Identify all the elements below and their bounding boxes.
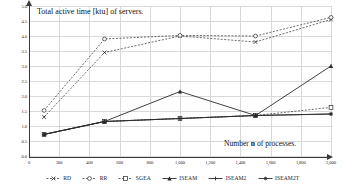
legend-label: RR (100, 175, 108, 182)
data-point-star-marker (254, 114, 258, 118)
legend-marker-icon (118, 175, 133, 182)
data-point-circle-marker (254, 34, 258, 38)
series-line (44, 114, 331, 134)
data-point-star-marker (263, 176, 267, 180)
legend-item-rr[interactable]: RR (82, 175, 107, 182)
legend-item-rd[interactable]: RD (46, 175, 71, 182)
data-point-star-marker (103, 120, 107, 124)
data-point-circle-marker (329, 16, 333, 20)
series-line (44, 20, 331, 118)
legend-item-iseam2[interactable]: ISEAM2 (208, 175, 246, 182)
chart-figure: 0.00.51.01.52.02.53.03.54.04.55.0 020040… (0, 0, 345, 188)
legend-marker-icon (208, 175, 223, 182)
legend-label: RD (63, 175, 71, 182)
legend-label: SGEA (136, 175, 151, 182)
series-rd (42, 18, 333, 119)
legend-marker-icon (46, 175, 61, 182)
data-point-triangle-marker (329, 64, 333, 68)
series-line (44, 107, 331, 134)
data-point-square-marker (329, 106, 333, 110)
legend-marker-icon (82, 175, 97, 182)
legend-marker-icon (258, 175, 273, 182)
series-iseam2 (42, 112, 333, 136)
data-point-x-marker (254, 40, 258, 44)
data-point-circle-marker (42, 109, 46, 113)
data-point-triangle-marker (178, 89, 182, 93)
legend-label: ISEAM2T (275, 175, 299, 182)
legend-item-iseam[interactable]: ISEAM (162, 175, 197, 182)
data-series-layer (0, 0, 345, 188)
series-line (44, 66, 331, 134)
data-point-x-marker (42, 115, 46, 119)
data-point-square-marker (124, 176, 128, 180)
legend-label: ISEAM2 (226, 175, 247, 182)
series-sgea (42, 106, 333, 137)
chart-legend: RDRRSGEAISEAMISEAM2ISEAM2T (0, 168, 345, 188)
data-point-plus-marker (214, 176, 218, 180)
series-rr (42, 16, 333, 113)
data-point-star-marker (178, 117, 182, 121)
series-line (44, 17, 331, 110)
legend-marker-icon (162, 175, 177, 182)
data-point-star-marker (42, 133, 46, 137)
series-iseam2t (42, 112, 333, 136)
data-point-circle-marker (178, 34, 182, 38)
data-point-x-marker (103, 51, 107, 55)
data-point-circle-marker (88, 176, 92, 180)
data-point-star-marker (329, 112, 333, 116)
series-line (44, 114, 331, 134)
data-point-circle-marker (103, 37, 107, 41)
legend-label: ISEAM (179, 175, 197, 182)
legend-item-iseam2t[interactable]: ISEAM2T (258, 175, 300, 182)
legend-item-sgea[interactable]: SGEA (118, 175, 151, 182)
